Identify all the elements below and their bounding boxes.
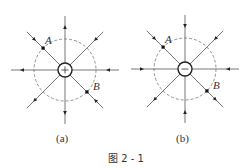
arrowhead-icon (183, 110, 187, 114)
arrowhead-icon (140, 67, 144, 71)
point-b-label: B (93, 80, 100, 92)
field-diagram: ABAB (0, 0, 247, 168)
field-line (147, 74, 180, 107)
point-a-label: A (164, 33, 172, 45)
arrowhead-icon (63, 25, 67, 29)
arrowhead-icon (63, 111, 67, 115)
figure-caption: 图 2 - 1 (108, 150, 144, 165)
point-b-label: B (213, 79, 220, 91)
field-line (70, 32, 103, 65)
point-a-label: A (44, 34, 52, 46)
arrowhead-icon (106, 68, 110, 72)
panel-b-label: (b) (176, 132, 189, 144)
arrowhead-icon (226, 67, 230, 71)
point-b-marker (205, 89, 208, 92)
field-line (27, 75, 60, 108)
point-a-marker (161, 45, 164, 48)
arrowhead-icon (183, 24, 187, 28)
arrowhead-icon (20, 68, 24, 72)
panel-a-label: (a) (56, 132, 68, 144)
field-line (190, 31, 223, 64)
point-b-marker (85, 90, 88, 93)
point-a-marker (41, 46, 44, 49)
